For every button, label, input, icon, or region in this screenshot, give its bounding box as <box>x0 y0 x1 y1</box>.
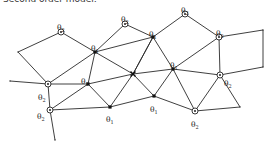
edge-endpoint-icon <box>54 139 56 141</box>
node-label: θ2 <box>57 23 65 33</box>
edge-endpoint-icon <box>262 66 264 68</box>
node-label: θ2 <box>37 112 45 122</box>
edge-line <box>88 74 133 84</box>
edge-line <box>173 69 220 75</box>
edge-line <box>173 37 219 69</box>
node-label: θ1 <box>149 30 157 40</box>
edge-line <box>48 52 95 84</box>
theta2-node-icon <box>192 108 198 114</box>
label-layer: θ2θ2θ2θ1θ1θ2θ2θ1θ1θ2θ2θ1θ1θ2 <box>37 6 232 130</box>
theta2-node-icon <box>47 107 53 113</box>
node-label: θ2 <box>216 29 224 39</box>
edge-line <box>50 110 55 140</box>
edge-endpoint-icon <box>17 51 19 53</box>
node-label: θ1 <box>170 61 178 71</box>
edge-line <box>219 37 220 75</box>
edge-line <box>88 52 95 84</box>
edge-line <box>50 84 88 110</box>
edge-line <box>153 14 185 37</box>
edge-line <box>195 107 240 111</box>
edge-line <box>48 84 50 110</box>
edge-line <box>154 96 195 111</box>
edge-endpoint-icon <box>9 80 11 82</box>
theta1-node-icon <box>152 94 155 97</box>
edge-line <box>195 75 220 111</box>
edge-line <box>219 30 263 37</box>
edge-line <box>88 84 110 107</box>
edge-line <box>95 37 153 52</box>
edge-line <box>173 69 195 111</box>
edge-line <box>185 14 219 37</box>
node-label: θ2 <box>224 79 232 89</box>
edge-layer <box>10 14 263 140</box>
edge-endpoint-icon <box>239 106 241 108</box>
node-label: θ1 <box>150 105 158 115</box>
edge-line <box>10 81 48 84</box>
edge-line <box>61 32 95 52</box>
node-label: θ1 <box>106 115 114 125</box>
edge-line <box>220 67 263 75</box>
network-diagram: θ2θ2θ2θ1θ1θ2θ2θ1θ1θ2θ2θ1θ1θ2 <box>0 0 270 141</box>
edge-line <box>95 52 133 74</box>
node-label: θ1 <box>91 44 99 54</box>
node-label: θ1 <box>81 77 89 87</box>
theta2-node-icon <box>217 72 223 78</box>
node-label: θ2 <box>38 93 46 103</box>
edge-line <box>18 52 48 84</box>
edge-line <box>220 75 240 107</box>
edge-line <box>133 69 173 74</box>
edge-line <box>133 37 153 74</box>
node-label: θ2 <box>191 120 199 130</box>
edge-line <box>18 32 61 52</box>
node-layer <box>9 11 264 141</box>
theta2-node-icon <box>45 81 51 87</box>
edge-line <box>133 74 154 96</box>
theta1-node-icon <box>108 105 111 108</box>
edge-endpoint-icon <box>262 29 264 31</box>
edge-line <box>154 69 173 96</box>
edge-line <box>50 107 110 110</box>
node-label: θ2 <box>181 6 189 16</box>
node-label: θ2 <box>121 15 129 25</box>
